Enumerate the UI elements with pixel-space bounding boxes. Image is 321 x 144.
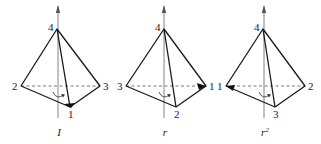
vertex-label-right: 1 (209, 80, 215, 92)
visible-outline (226, 29, 305, 107)
vertex-marker-icon (226, 85, 235, 91)
vertex-label-apex: 4 (254, 21, 260, 33)
tetrahedron-rotation-r-squared: 4123r2 (217, 5, 314, 138)
rotation-arrowhead-icon (267, 94, 271, 98)
visible-outline (21, 29, 100, 107)
rotation-arrowhead-icon (167, 94, 171, 98)
axis-arrow-icon (262, 5, 266, 13)
vertex-label-apex: 4 (48, 21, 54, 33)
diagram-caption: r2 (261, 126, 269, 138)
tetrahedron-identity: 4231I (12, 5, 109, 138)
caption-superscript: 2 (265, 126, 269, 134)
vertex-label-front: 2 (174, 108, 180, 120)
diagram-caption: r (163, 126, 168, 138)
vertex-label-left: 1 (217, 80, 223, 92)
tetrahedron-rotation-r: 4312r (117, 5, 215, 138)
vertex-label-front: 1 (68, 108, 74, 120)
vertex-label-right: 3 (103, 80, 109, 92)
diagram-caption: I (56, 126, 62, 138)
vertex-label-apex: 4 (155, 21, 161, 33)
tetrahedron-rotations-diagram: 4231I 4312r 4123r2 (0, 0, 321, 144)
rotation-arrowhead-icon (61, 94, 65, 98)
vertex-label-right: 2 (308, 80, 314, 92)
vertex-label-left: 3 (117, 80, 123, 92)
vertex-label-front: 3 (273, 108, 279, 120)
axis-arrow-icon (56, 5, 60, 13)
vertex-label-left: 2 (12, 80, 18, 92)
axis-arrow-icon (162, 5, 166, 13)
